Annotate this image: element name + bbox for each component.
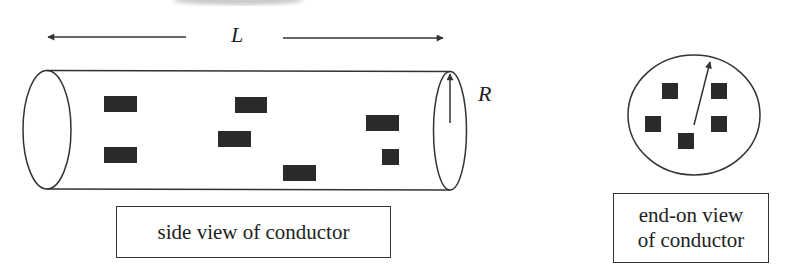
charge-carrier bbox=[711, 116, 727, 132]
radius-label: R bbox=[478, 81, 491, 107]
charge-carrier bbox=[711, 83, 727, 99]
charge-carrier bbox=[218, 131, 251, 147]
charge-carrier bbox=[104, 147, 137, 163]
charge-carrier bbox=[678, 133, 694, 149]
end-view-caption-box: end-on view of conductor bbox=[613, 193, 769, 263]
charge-carrier bbox=[662, 83, 678, 99]
cylinder-top-edge bbox=[47, 71, 450, 72]
cylinder-left-end bbox=[23, 70, 71, 189]
cylinder bbox=[23, 70, 467, 190]
charge-carrier bbox=[104, 96, 137, 112]
side-view-caption-box: side view of conductor bbox=[116, 206, 391, 258]
charge-carrier bbox=[645, 116, 661, 132]
cylinder-bottom-edge bbox=[47, 189, 450, 190]
end-view-caption-line2: of conductor bbox=[638, 228, 745, 253]
radius-arrow-end bbox=[694, 62, 710, 125]
end-view-caption-line1: end-on view bbox=[639, 203, 743, 228]
end-view-charges bbox=[645, 83, 727, 149]
charge-carrier bbox=[283, 165, 316, 181]
side-view-charges bbox=[104, 96, 399, 181]
end-view-circle bbox=[628, 55, 760, 175]
side-view-caption: side view of conductor bbox=[158, 220, 350, 245]
charge-carrier bbox=[382, 149, 399, 165]
length-label: L bbox=[231, 22, 243, 48]
charge-carrier bbox=[366, 115, 399, 131]
scan-smudge bbox=[173, 0, 303, 5]
charge-carrier bbox=[235, 97, 267, 113]
